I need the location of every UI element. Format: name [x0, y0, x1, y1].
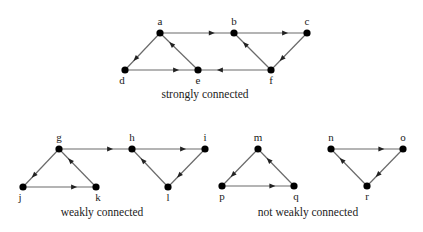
node-label-d: d [119, 74, 125, 86]
edge-k-g [59, 149, 96, 187]
edge-q-m [258, 149, 294, 186]
arrowhead-icon [378, 147, 384, 152]
node-label-l: l [166, 191, 169, 203]
node-r [363, 182, 370, 189]
node-label-o: o [400, 131, 406, 143]
arrowhead-icon [173, 68, 179, 73]
node-i [201, 145, 208, 152]
node-j [19, 183, 26, 190]
node-label-h: h [129, 131, 135, 143]
node-n [327, 145, 334, 152]
graph-diagram: abcdefghijklmnopqr strongly connectedwea… [0, 0, 423, 232]
node-c [303, 29, 310, 36]
node-label-e: e [196, 74, 201, 86]
edges-layer [23, 31, 403, 190]
arrowhead-icon [107, 147, 113, 152]
edge-a-d [125, 33, 160, 70]
node-label-c: c [305, 15, 310, 27]
node-label-k: k [95, 191, 101, 203]
arrowhead-icon [71, 185, 77, 190]
node-p [218, 182, 225, 189]
labels-layer: abcdefghijklmnopqr [17, 15, 406, 203]
edge-f-b [234, 33, 271, 70]
node-o [399, 145, 406, 152]
node-label-i: i [203, 131, 206, 143]
node-label-r: r [365, 190, 369, 202]
node-d [121, 66, 128, 73]
node-label-n: n [328, 131, 334, 143]
arrowhead-icon [180, 147, 186, 152]
edge-c-f [271, 33, 307, 70]
caption-not-weakly-connected: not weakly connected [258, 206, 359, 219]
node-label-g: g [56, 131, 62, 143]
node-b [230, 29, 237, 36]
node-label-b: b [231, 15, 237, 27]
node-m [254, 145, 261, 152]
edge-o-r [367, 149, 403, 186]
node-e [194, 66, 201, 73]
node-f [267, 66, 274, 73]
arrowhead-icon [282, 31, 288, 36]
caption-strongly-connected: strongly connected [161, 88, 248, 101]
node-label-a: a [158, 15, 163, 27]
arrowhead-icon [217, 68, 223, 73]
node-h [128, 145, 135, 152]
node-k [92, 183, 99, 190]
edge-l-h [132, 149, 168, 187]
edge-i-l [168, 149, 205, 187]
node-label-f: f [269, 74, 273, 86]
captions-layer: strongly connectedweakly connectednot we… [61, 88, 359, 219]
node-label-q: q [293, 190, 299, 202]
caption-weakly-connected: weakly connected [61, 206, 144, 219]
node-a [156, 29, 163, 36]
arrowhead-icon [209, 31, 215, 36]
edge-r-n [331, 149, 367, 186]
arrowhead-icon [269, 184, 275, 189]
edge-g-j [23, 149, 59, 187]
node-label-j: j [17, 191, 21, 203]
node-l [164, 183, 171, 190]
node-g [55, 145, 62, 152]
node-q [290, 182, 297, 189]
node-label-p: p [219, 190, 225, 202]
edge-e-a [160, 33, 198, 70]
edge-m-p [222, 149, 258, 186]
node-label-m: m [254, 131, 263, 143]
